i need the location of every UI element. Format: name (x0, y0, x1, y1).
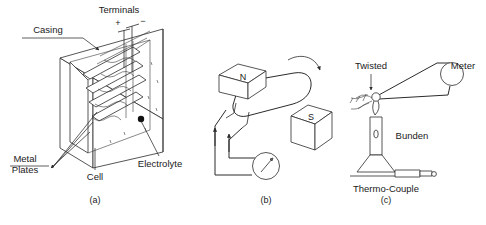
casing-leader-arrow (83, 38, 99, 50)
cell-label: Cell (87, 171, 103, 182)
magnet-south: S (291, 105, 332, 150)
panel-c-thermocouple: Twisted Meter Bunden Thermo-Couple (c) (350, 60, 475, 205)
electrolyte-label: Electrolyte (138, 158, 182, 169)
positive-terminal-label: + (115, 18, 120, 28)
panel-a-simple-cell: Terminals + − Casing Metal Plates Cell E… (10, 4, 182, 205)
panel-b-caption: (b) (261, 195, 272, 205)
magnet-north: N (219, 64, 266, 99)
north-pole-label: N (240, 72, 247, 82)
meter-label: Meter (451, 60, 475, 71)
terminals-label: Terminals (99, 4, 140, 15)
panel-c-caption: (c) (381, 195, 392, 205)
rotation-arrow (288, 56, 320, 70)
twisted-label: Twisted (355, 60, 387, 71)
physics-figure: Terminals + − Casing Metal Plates Cell E… (0, 0, 486, 225)
thermocouple-label: Thermo-Couple (353, 183, 419, 194)
bunsen-label: Bunden (396, 130, 429, 141)
twisted-junction (350, 93, 380, 115)
negative-terminal-label: − (140, 16, 145, 26)
metal-plates-label-line1: Metal (13, 153, 36, 164)
panel-a-caption: (a) (90, 195, 101, 205)
panel-b-generator: N S (b) (215, 56, 332, 205)
galvanometer (253, 153, 280, 180)
bunsen-burner (350, 117, 436, 177)
south-pole-label: S (308, 112, 314, 122)
external-circuit (215, 110, 255, 175)
casing-label: Casing (33, 24, 63, 35)
